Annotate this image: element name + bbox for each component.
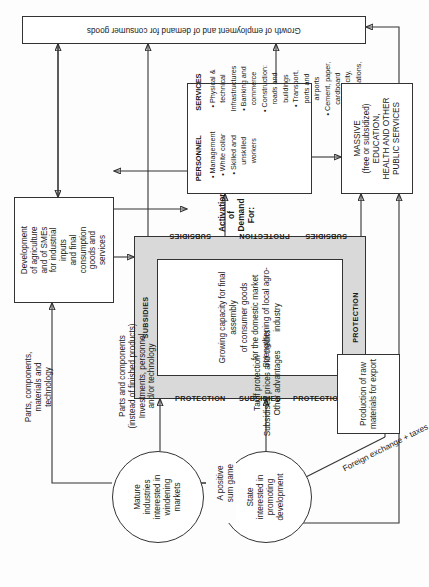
node-mature-industries-label: Mature industries interested in windenin… bbox=[133, 475, 182, 520]
node-raw-materials-label: Production of raw materials for export bbox=[359, 359, 378, 429]
ring-label-right-1: SUBSIDIES bbox=[169, 232, 211, 241]
list-item: •Construction: roads and buildings bbox=[260, 62, 291, 116]
list-item: •Physical & technical Infrastructures bbox=[208, 62, 239, 116]
node-state-label: State interested in promoting developmen… bbox=[246, 474, 285, 521]
list-item: unskilled workers bbox=[239, 132, 260, 178]
edge-label-tariff-protection: Tariff protection Subsidised prices and … bbox=[243, 315, 282, 451]
node-growth-employment[interactable]: Growth of employment and of demand for c… bbox=[22, 16, 366, 44]
diagram-canvas: Mature industries interested in windenin… bbox=[0, 0, 429, 587]
node-massive-education-label: MASSIVE (free or subsidized) EDUCATION, … bbox=[353, 98, 401, 180]
services-header: SERVICES bbox=[195, 62, 204, 123]
edge-label-parts-components-technology: Parts, components, materials and technol… bbox=[14, 327, 53, 447]
list-item: •Skilled and bbox=[229, 132, 239, 178]
ring-label-right-2: PROTECTION bbox=[239, 232, 290, 241]
node-mature-industries[interactable]: Mature industries interested in windenin… bbox=[112, 451, 204, 543]
personnel-header: PERSONNEL bbox=[195, 132, 204, 185]
list-item: •Banking and commerce bbox=[239, 62, 260, 116]
node-raw-materials-export[interactable]: Production of raw materials for export bbox=[337, 354, 400, 434]
node-development-agriculture[interactable]: Development of agriculture and of SMEs f… bbox=[14, 197, 114, 303]
ring-label-left-1: PROTECTION bbox=[175, 394, 226, 403]
node-development-agriculture-label: Development of agriculture and of SMEs f… bbox=[20, 226, 107, 274]
personnel-list: •Management •White collar •Skilled and u… bbox=[208, 132, 260, 185]
list-item: •Transport, ports and airports bbox=[291, 62, 322, 116]
edge-label-positive-sum-game: A positive sum game bbox=[206, 443, 236, 523]
edge-label-parts-instead-of-finished: Parts and components (instead of finishe… bbox=[108, 305, 157, 447]
list-item: •Management bbox=[208, 132, 218, 178]
ring-label-right-3: SUBSIDIES bbox=[305, 232, 347, 241]
node-massive-education[interactable]: MASSIVE (free or subsidized) EDUCATION, … bbox=[341, 83, 413, 194]
list-item: •White collar bbox=[218, 132, 228, 178]
node-growth-employment-label: Growth of employment and of demand for c… bbox=[87, 25, 301, 35]
diagram-page: Mature industries interested in windenin… bbox=[0, 0, 429, 587]
node-activation-of-demand[interactable]: PERSONNEL •Management •White collar •Ski… bbox=[187, 83, 312, 194]
ring-label-bottom: PROTECTION bbox=[351, 292, 360, 343]
activation-of-demand-heading: Activation of Demand For: bbox=[208, 198, 256, 232]
